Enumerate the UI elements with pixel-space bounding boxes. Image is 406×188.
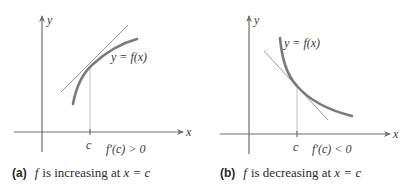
caption-f-a: f (35, 165, 41, 180)
caption-a: (a) f is increasing at x = c (12, 163, 151, 180)
caption-f-b: f (243, 165, 249, 180)
panel-a: y x y = f(x) c f′(c) > 0 (a) f is increa… (12, 13, 192, 180)
caption-tag-b: (b) (220, 166, 235, 180)
x-axis-label-b: x (392, 127, 399, 141)
y-axis-label-b: y (253, 13, 260, 27)
caption-b: (b) f is decreasing at x = c (220, 163, 361, 180)
point-label-c-a: c (86, 138, 92, 152)
caption-eq-a: x = c (123, 165, 151, 180)
panel-b: y x y = f(x) c f′(c) < 0 (b) f is decrea… (220, 13, 399, 180)
derivative-label-a: f′(c) > 0 (106, 142, 145, 156)
curve-label-b: y = f(x) (283, 36, 320, 50)
caption-text-b: is decreasing at (251, 165, 334, 180)
curve-label-a: y = f(x) (110, 50, 147, 64)
caption-text-a: is increasing at (42, 165, 123, 180)
caption-tag-a: (a) (12, 166, 27, 180)
derivative-label-b: f′(c) < 0 (312, 142, 351, 156)
point-label-c-b: c (293, 140, 299, 154)
curve-a (73, 39, 137, 104)
figure: y x y = f(x) c f′(c) > 0 (a) f is increa… (0, 0, 406, 188)
x-axis-label-a: x (185, 125, 192, 139)
y-axis-label-a: y (46, 13, 53, 27)
caption-eq-b: x = c (333, 165, 361, 180)
